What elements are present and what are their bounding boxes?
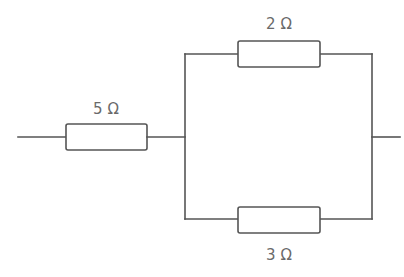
resistor-5-ohm-label: 5 Ω	[93, 100, 119, 118]
circuit-diagram: 5 Ω 2 Ω 3 Ω	[0, 0, 404, 277]
resistor-5-ohm	[66, 124, 147, 150]
resistor-3-ohm	[238, 207, 320, 233]
resistor-2-ohm	[238, 41, 320, 67]
resistor-3-ohm-label: 3 Ω	[266, 246, 292, 264]
resistor-2-ohm-label: 2 Ω	[266, 15, 292, 33]
